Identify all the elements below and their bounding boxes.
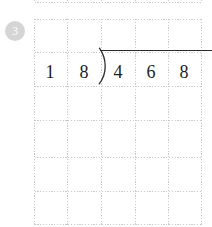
- dividend-digit-ones: 8: [167, 63, 201, 81]
- dividend-digit-hundreds: 4: [101, 63, 135, 81]
- division-vinculum: [100, 50, 212, 51]
- dividend-digit-tens: 6: [134, 63, 168, 81]
- divisor-digit-tens: 1: [33, 63, 67, 81]
- worksheet-canvas: 3 1 8 4 6 8: [0, 0, 212, 227]
- long-division-expression: 1 8 4 6 8: [0, 0, 212, 227]
